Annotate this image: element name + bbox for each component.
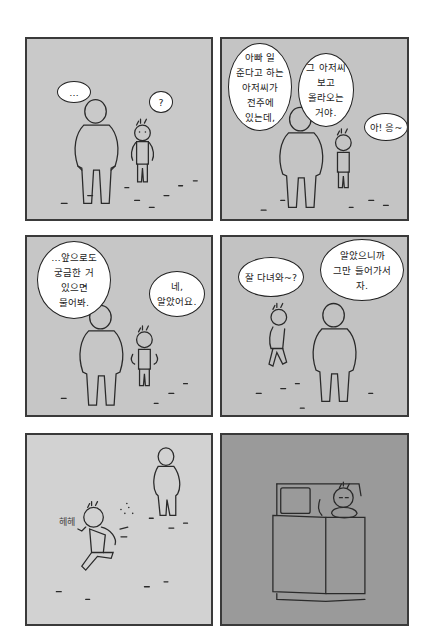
speech-bubble-father: 그 아저씨 보고 올라오는 거야. — [298, 53, 354, 127]
bubble-text: 그 아저씨 보고 올라오는 거야. — [306, 60, 345, 120]
speech-bubble-father: …앞으로도 궁금한 거 있으면 물어봐. — [37, 241, 111, 319]
comic-panel-2: 아빠 일 준다고 하는 아저씨가 전주에 있는데, 그 아저씨 보고 올라오는 … — [220, 37, 409, 221]
speech-bubble-father: 알았으니까 그만 들어가서 자. — [320, 239, 404, 301]
bubble-text: 아빠 일 준다고 하는 아저씨가 전주에 있는데, — [236, 50, 284, 125]
comic-panel-5: 헤헤 — [25, 433, 213, 626]
bubble-text: 네, 알았어요. — [157, 279, 196, 309]
father-and-child-figures — [27, 39, 211, 219]
speech-bubble-child: 잘 다녀와~? — [238, 257, 304, 297]
bubble-text: …앞으로도 궁금한 거 있으면 물어봐. — [51, 250, 97, 310]
speech-bubble-child: ? — [149, 91, 173, 113]
comic-panel-4: 잘 다녀와~? 알았으니까 그만 들어가서 자. — [220, 235, 409, 417]
speech-bubble-father: … — [57, 81, 91, 103]
bubble-text: 아! 응~ — [370, 120, 403, 135]
child-sleeping-in-bed — [222, 435, 407, 624]
child-running-father-walking-figures — [27, 435, 211, 624]
comic-panel-1: … ? — [25, 37, 213, 221]
bubble-text: … — [69, 85, 79, 100]
speech-bubble-father: 아빠 일 준다고 하는 아저씨가 전주에 있는데, — [228, 43, 292, 131]
bubble-text: 잘 다녀와~? — [245, 270, 297, 285]
comic-panel-6 — [220, 433, 409, 626]
comic-panel-3: …앞으로도 궁금한 거 있으면 물어봐. 네, 알았어요. — [25, 235, 213, 417]
speech-bubble-child: 네, 알았어요. — [149, 271, 205, 317]
speech-bubble-child: 아! 응~ — [364, 113, 408, 141]
bubble-text: 알았으니까 그만 들어가서 자. — [333, 248, 390, 293]
bubble-text: ? — [158, 95, 163, 110]
sound-effect-text: 헤헤 — [59, 515, 75, 528]
